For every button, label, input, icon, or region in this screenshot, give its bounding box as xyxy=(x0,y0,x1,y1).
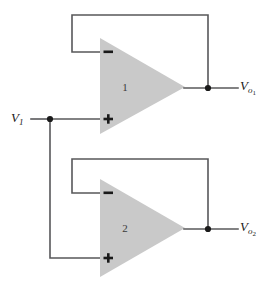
opamp1-number: 1 xyxy=(122,81,128,93)
input-wire-opamp2 xyxy=(50,119,101,258)
input-node-v1 xyxy=(47,116,53,122)
circuit-schematic-svg: 1 2 xyxy=(0,0,271,287)
circuit-diagram: 1 2 V1 Vo1 Vo2 xyxy=(0,0,271,287)
label-output-vo2-main: V xyxy=(240,219,248,234)
label-output-vo1: Vo1 xyxy=(240,79,256,97)
output-node-opamp2 xyxy=(205,226,211,232)
output-node-opamp1 xyxy=(205,85,211,91)
label-input-v1-sub: 1 xyxy=(19,117,24,127)
label-output-vo2: Vo2 xyxy=(240,220,256,238)
label-output-vo2-subsub: 2 xyxy=(252,230,256,238)
opamp2-number: 2 xyxy=(122,222,128,234)
label-output-vo1-main: V xyxy=(240,78,248,93)
label-input-v1-main: V xyxy=(11,110,19,125)
opamp2-inverting-sign xyxy=(104,192,114,195)
label-input-v1: V1 xyxy=(11,111,23,127)
label-output-vo1-subsub: 1 xyxy=(252,89,256,97)
opamp1-inverting-sign xyxy=(104,51,114,54)
